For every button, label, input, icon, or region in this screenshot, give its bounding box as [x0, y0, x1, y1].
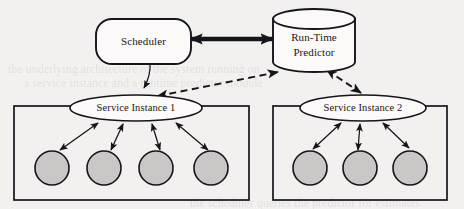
worker-node — [139, 151, 173, 185]
worker-node — [393, 151, 427, 185]
diagram-canvas: Scheduler Run-Time Predictor Service Ins… — [0, 0, 464, 209]
architecture-diagram: the underlying architecture of the syste… — [0, 0, 464, 209]
service-instance-1-label: Service Instance 1 — [97, 102, 176, 113]
edge-service-instance-1-worker-2 — [111, 124, 123, 150]
worker-node — [343, 151, 377, 185]
edge-service-instance-2-worker-2 — [358, 124, 360, 150]
edge-service-instance-1-predictor — [158, 72, 278, 96]
edge-service-instance-1-worker-4 — [176, 123, 208, 150]
edge-service-instance-2-worker-3 — [383, 123, 409, 148]
edge-predictor-service-instance-2 — [327, 70, 361, 93]
worker-node — [35, 151, 69, 185]
service-instance-2-label: Service Instance 2 — [324, 102, 403, 113]
scheduler-label: Scheduler — [121, 35, 166, 47]
edge-service-instance-1-worker-1 — [60, 123, 98, 150]
predictor-label-line-2: Predictor — [293, 46, 334, 58]
predictor-label-line-1: Run-Time — [291, 31, 337, 43]
edge-service-instance-2-worker-1 — [313, 123, 341, 149]
edge-service-instance-1-worker-3 — [152, 124, 160, 150]
edge-scheduler-service-instance-1 — [144, 63, 150, 88]
worker-node — [293, 151, 327, 185]
worker-node — [194, 151, 228, 185]
worker-node — [87, 151, 121, 185]
predictor-cylinder-top — [273, 9, 355, 29]
